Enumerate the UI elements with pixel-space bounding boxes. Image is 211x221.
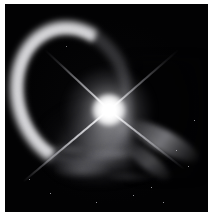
field-star <box>29 179 30 180</box>
central-star-nucleus <box>102 104 116 117</box>
sky-frame <box>5 4 208 212</box>
field-star <box>151 187 152 188</box>
astronomical-image-figure <box>0 0 211 221</box>
field-star <box>163 202 164 203</box>
field-star <box>133 195 134 196</box>
field-star <box>50 193 51 194</box>
field-star <box>96 202 97 203</box>
